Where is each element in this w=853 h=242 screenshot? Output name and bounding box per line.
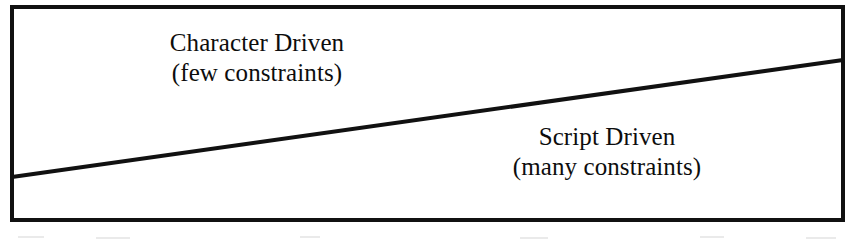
label-character-driven-title: Character Driven [92,28,422,58]
label-character-driven-subtitle: (few constraints) [92,58,422,88]
scan-artifact [700,236,724,238]
scan-artifact [806,237,836,239]
scan-artifact [300,236,320,238]
figure-root: Character Driven (few constraints) Scrip… [0,0,853,242]
scan-artifact [96,237,130,239]
label-script-driven: Script Driven (many constraints) [442,122,772,182]
label-character-driven: Character Driven (few constraints) [92,28,422,88]
scan-artifact [18,236,44,238]
label-script-driven-title: Script Driven [442,122,772,152]
label-script-driven-subtitle: (many constraints) [442,152,772,182]
scan-artifact [520,237,548,239]
